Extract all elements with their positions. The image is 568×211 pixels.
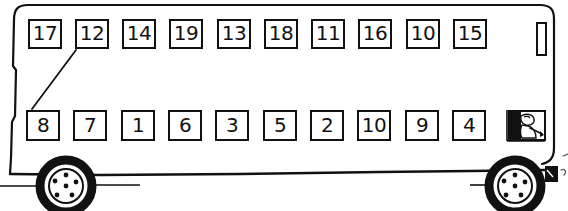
seat-box[interactable]: 12	[75, 19, 109, 49]
seat-box[interactable]: 3	[215, 110, 249, 141]
bus-roof	[14, 5, 554, 20]
seat-box[interactable]: 16	[358, 19, 392, 49]
seat-box[interactable]: 9	[405, 110, 439, 141]
seat-box[interactable]: 19	[169, 19, 203, 49]
seat-number: 10	[362, 115, 386, 135]
seat-box[interactable]: 1	[121, 110, 155, 141]
seat-box[interactable]: 8	[26, 110, 60, 141]
seat-pairing-line	[32, 50, 76, 109]
seat-number: 4	[463, 115, 475, 135]
seat-number: 6	[179, 115, 191, 135]
seat-box[interactable]: 6	[168, 110, 202, 141]
seat-box[interactable]: 11	[311, 19, 345, 49]
bus-seating-diagram: 17 12 14 19 13 18 11 16 10 15 8 7 1 6 3 …	[0, 0, 568, 211]
seat-box[interactable]: 17	[28, 19, 62, 49]
seat-number: 1	[132, 115, 144, 135]
rear-side-window	[536, 22, 547, 56]
seat-number: 15	[458, 23, 482, 43]
seat-number: 3	[226, 115, 238, 135]
seat-number: 10	[411, 23, 435, 43]
seat-box[interactable]: 15	[453, 19, 487, 49]
bus-front	[10, 20, 16, 174]
seat-box[interactable]: 10	[357, 110, 391, 141]
seat-number: 12	[80, 23, 104, 43]
rear-wheel	[489, 160, 541, 211]
driver-window	[508, 110, 546, 141]
seat-number: 7	[84, 115, 96, 135]
seat-number: 2	[321, 115, 333, 135]
seat-box[interactable]: 5	[263, 110, 297, 141]
seat-number: 9	[416, 115, 428, 135]
edge-scribble-marks	[561, 154, 568, 175]
seat-number: 14	[127, 23, 151, 43]
seat-number: 16	[363, 23, 387, 43]
seat-box[interactable]: 4	[452, 110, 486, 141]
front-wheel	[40, 160, 92, 211]
seat-box[interactable]: 18	[264, 19, 298, 49]
seat-number: 17	[33, 23, 57, 43]
seat-box[interactable]: 13	[217, 19, 251, 49]
seat-number: 18	[269, 23, 293, 43]
driver-figure	[510, 112, 544, 139]
seat-number: 11	[316, 23, 340, 43]
rear-mudflap	[545, 166, 558, 182]
seat-box[interactable]: 10	[406, 19, 440, 49]
seat-box[interactable]: 2	[310, 110, 344, 141]
seat-number: 8	[37, 115, 49, 135]
seat-number: 5	[274, 115, 286, 135]
seat-number: 19	[174, 23, 198, 43]
seat-box[interactable]: 7	[73, 110, 107, 141]
seat-box[interactable]: 14	[122, 19, 156, 49]
seat-number: 13	[222, 23, 246, 43]
